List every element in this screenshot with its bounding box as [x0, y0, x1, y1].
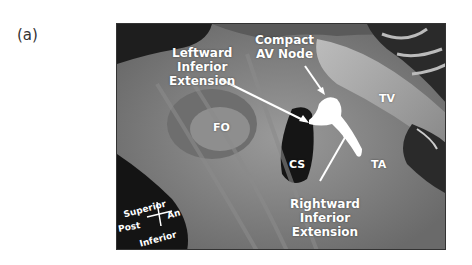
label-tv: TV [379, 92, 395, 105]
label-rightward-inferior-extension: Rightward Inferior Extension [290, 197, 360, 239]
panel-label: (a) [17, 26, 38, 44]
label-line: Extension [290, 225, 360, 239]
label-leftward-inferior-extension: Leftward Inferior Extension [169, 46, 235, 88]
label-line: Extension [169, 74, 235, 88]
anatomy-figure: Leftward Inferior Extension Compact AV N… [116, 23, 446, 250]
label-line: Inferior [290, 211, 360, 225]
label-line: Inferior [169, 60, 235, 74]
label-line: AV Node [255, 47, 314, 61]
label-line: Leftward [169, 46, 235, 60]
label-line: Compact [255, 33, 314, 47]
label-fo: FO [213, 121, 230, 134]
label-ta: TA [371, 158, 386, 171]
label-line: Rightward [290, 197, 360, 211]
label-cs: CS [289, 158, 305, 171]
label-compact-av-node: Compact AV Node [255, 33, 314, 61]
